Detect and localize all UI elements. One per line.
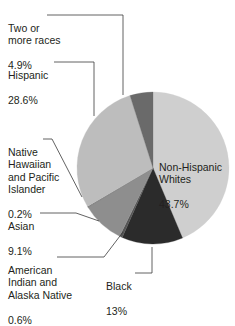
label-american-indian-value: 0.6%	[8, 314, 32, 326]
label-non-hispanic-whites: Non-Hispanic Whites 43.7%	[159, 148, 222, 211]
label-asian-text: Asian	[8, 220, 34, 232]
leader-line-black	[135, 247, 152, 273]
label-black: Black 13%	[106, 267, 132, 317]
label-two-or-more-text: Two or more races	[8, 22, 61, 47]
label-american-indian-text: American Indian and Alaska Native	[8, 264, 72, 301]
label-asian: Asian 9.1%	[8, 207, 34, 257]
label-american-indian: American Indian and Alaska Native 0.6%	[8, 251, 72, 326]
label-black-value: 13%	[106, 305, 127, 317]
label-white-text: Non-Hispanic Whites	[159, 161, 222, 186]
label-hispanic-value: 28.6%	[8, 94, 38, 106]
label-black-text: Black	[106, 280, 132, 292]
label-native-hawaiian-text: Native Hawaiian and Pacific Islander	[8, 146, 59, 196]
label-hispanic: Hispanic 28.6%	[8, 56, 48, 106]
label-white-value: 43.7%	[159, 198, 189, 210]
label-hispanic-text: Hispanic	[8, 69, 48, 81]
